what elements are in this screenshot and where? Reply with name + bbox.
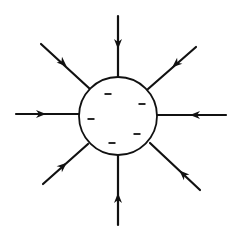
sphere-outline <box>79 77 157 155</box>
field-line-segment <box>148 47 196 89</box>
field-line-top-left <box>41 44 90 89</box>
field-line-top <box>114 16 122 77</box>
field-line-segment <box>41 44 90 89</box>
field-line-top-right <box>148 47 196 89</box>
field-line-left <box>16 110 79 118</box>
field-line-segment <box>150 143 200 190</box>
arrowhead-icon <box>57 57 67 67</box>
diagram-canvas <box>0 0 246 231</box>
charged-sphere <box>79 77 157 155</box>
field-line-bottom-right <box>150 143 200 190</box>
field-line-bottom <box>114 155 122 225</box>
field-line-bottom-left <box>43 144 88 184</box>
field-diagram <box>0 0 246 231</box>
field-line-right <box>157 111 226 119</box>
